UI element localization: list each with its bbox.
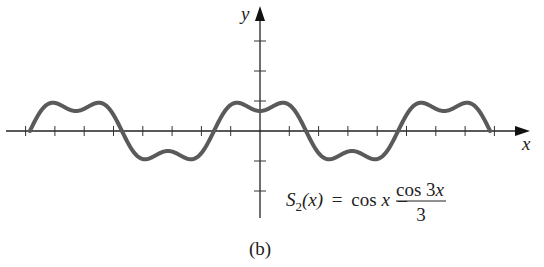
x-axis-label: x xyxy=(521,133,531,154)
x-axis xyxy=(6,126,530,136)
equation-term1: cos x xyxy=(351,189,390,210)
chart-figure: y x S2(x) = cos x – cos 3x 3 (b) xyxy=(0,0,544,267)
panel-label: (b) xyxy=(249,238,271,260)
equation-annotation: S2(x) = cos x – cos 3x 3 xyxy=(286,179,446,225)
equation-arg: (x) xyxy=(302,189,323,211)
svg-text:S2(x) = cos x: S2(x) = cos x – xyxy=(286,189,408,214)
equation-numerator: cos 3x xyxy=(396,179,445,200)
y-axis-label: y xyxy=(239,3,250,24)
equation-lhs: S xyxy=(286,189,296,210)
equation-equals: = xyxy=(332,189,343,210)
y-axis-arrow-icon xyxy=(255,6,265,21)
equation-denominator: 3 xyxy=(416,204,426,225)
